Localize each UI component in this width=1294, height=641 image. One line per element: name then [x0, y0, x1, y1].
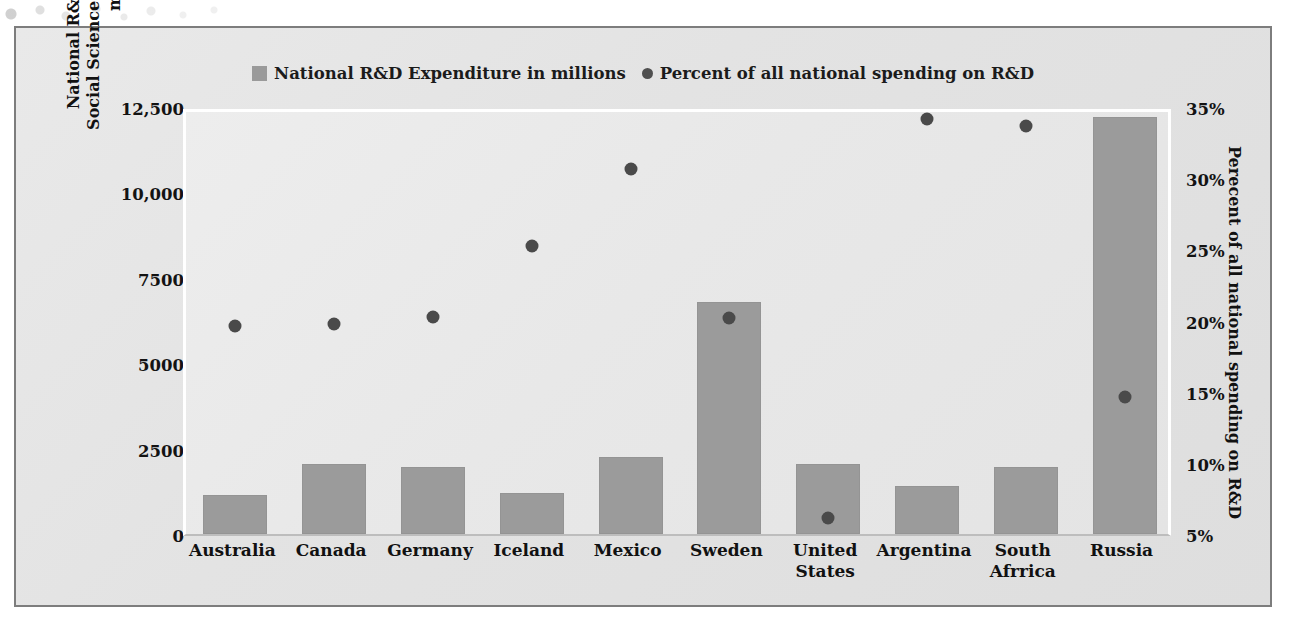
chart-figure: National R&D Expenditure in millions Per… [14, 26, 1272, 607]
scatter-point [229, 319, 242, 332]
scatter-point [822, 511, 835, 524]
y-left-tick-0: 12,500 [121, 100, 184, 119]
page-background: National R&D Expenditure in millions Per… [0, 0, 1294, 641]
y-right-tick-1: 30% [1186, 171, 1225, 190]
scatter-point [723, 312, 736, 325]
x-axis-label: United States [770, 540, 880, 581]
scatter-point [1019, 120, 1032, 133]
y-right-tick-5: 10% [1186, 455, 1225, 474]
legend-item-expenditure: National R&D Expenditure in millions [252, 64, 626, 83]
y-right-tick-3: 20% [1186, 313, 1225, 332]
legend-label-expenditure: National R&D Expenditure in millions [274, 64, 626, 83]
x-axis-label: South Afrrica [968, 540, 1078, 581]
scatter-point [328, 318, 341, 331]
y-left-tick-1: 10,000 [121, 185, 184, 204]
x-axis-label: Iceland [474, 540, 584, 561]
chart-legend: National R&D Expenditure in millions Per… [16, 64, 1270, 83]
y-left-tick-3: 5000 [138, 356, 184, 375]
scatter-series-layer [186, 112, 1168, 534]
x-axis-label: Russia [1067, 540, 1177, 561]
legend-item-percent: Percent of all national spending on R&D [642, 64, 1034, 83]
y-right-tick-0: 35% [1186, 100, 1225, 119]
scatter-point [624, 162, 637, 175]
y-left-tick-4: 2500 [138, 441, 184, 460]
x-axis-label: Sweden [671, 540, 781, 561]
y-axis-right-ticks: 35%30%25%20%15%10%5% [1182, 28, 1246, 605]
x-axis-label: Argentina [869, 540, 979, 561]
scatter-point [525, 239, 538, 252]
x-axis-label: Germany [375, 540, 485, 561]
legend-label-percent: Percent of all national spending on R&D [660, 64, 1034, 83]
x-axis-category-labels: AustraliaCanadaGermanyIcelandMexicoSwede… [183, 540, 1171, 604]
scatter-point [1118, 390, 1131, 403]
y-left-tick-2: 7500 [138, 270, 184, 289]
scatter-point [921, 113, 934, 126]
x-axis-label: Canada [276, 540, 386, 561]
circle-dot-icon [642, 68, 653, 79]
y-right-tick-2: 25% [1186, 242, 1225, 261]
y-right-tick-6: 5% [1186, 527, 1213, 546]
plot-area [183, 109, 1171, 536]
scatter-point [427, 310, 440, 323]
x-axis-label: Australia [177, 540, 287, 561]
square-swatch-icon [252, 66, 267, 81]
y-axis-left-ticks: 12,50010,0007500500025000 [112, 28, 192, 605]
y-right-tick-4: 15% [1186, 384, 1225, 403]
x-axis-label: Mexico [573, 540, 683, 561]
